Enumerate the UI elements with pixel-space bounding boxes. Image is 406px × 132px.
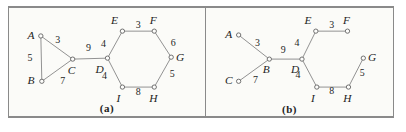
edge-weight-B-D: 9 bbox=[281, 44, 286, 55]
node-label-D: D bbox=[94, 63, 103, 75]
edge-D-E bbox=[107, 31, 122, 58]
node-C bbox=[236, 79, 240, 83]
node-label-F: F bbox=[149, 14, 157, 26]
node-label-C: C bbox=[225, 74, 233, 86]
node-label-A: A bbox=[224, 28, 232, 40]
caption-b: (b) bbox=[196, 104, 383, 115]
edge-weight-F-G: 6 bbox=[171, 37, 176, 48]
node-I bbox=[120, 85, 124, 89]
node-label-E: E bbox=[303, 15, 311, 27]
node-F bbox=[345, 29, 349, 33]
figure-frame: 5379436584ABCDEFGHI (a) 37943485ABCDEFGH… bbox=[8, 6, 394, 118]
edge-F-G bbox=[154, 31, 171, 57]
node-I bbox=[315, 85, 319, 89]
node-B bbox=[40, 79, 44, 83]
edge-weight-E-F: 3 bbox=[329, 19, 334, 30]
node-label-E: E bbox=[110, 15, 118, 27]
node-D bbox=[300, 57, 304, 61]
edge-weight-H-G: 5 bbox=[360, 67, 365, 78]
node-label-B: B bbox=[263, 63, 270, 75]
edge-weight-I-H: 8 bbox=[329, 85, 334, 96]
edge-A-B bbox=[41, 36, 42, 81]
node-F bbox=[152, 29, 156, 33]
edge-D-I bbox=[302, 59, 317, 87]
node-H bbox=[152, 85, 156, 89]
node-label-B: B bbox=[27, 74, 34, 86]
edge-weight-C-D: 9 bbox=[86, 42, 91, 53]
edge-D-E bbox=[302, 31, 316, 59]
graph-b: 37943485ABCDEFGHI bbox=[206, 8, 393, 116]
node-C bbox=[70, 57, 74, 61]
edge-weight-G-H: 5 bbox=[170, 68, 175, 79]
node-G bbox=[361, 56, 365, 60]
panel-b: 37943485ABCDEFGHI (b) bbox=[206, 8, 393, 116]
edge-weight-E-F: 3 bbox=[136, 19, 141, 30]
node-label-C: C bbox=[68, 64, 76, 76]
node-label-D: D bbox=[290, 63, 299, 75]
edge-weight-A-C: 3 bbox=[55, 34, 60, 45]
node-H bbox=[346, 85, 350, 89]
node-B bbox=[267, 57, 271, 61]
node-label-A: A bbox=[26, 29, 34, 41]
edge-weight-A-B: 3 bbox=[255, 37, 260, 48]
node-label-H: H bbox=[148, 92, 158, 104]
graph-a: 5379436584ABCDEFGHI bbox=[9, 8, 205, 116]
node-D bbox=[105, 56, 109, 60]
caption-a: (a) bbox=[9, 103, 205, 114]
node-G bbox=[169, 55, 173, 59]
node-A bbox=[39, 34, 43, 38]
edge-weight-D-E: 4 bbox=[295, 37, 300, 48]
edge-C-D bbox=[73, 58, 108, 59]
node-label-I: I bbox=[310, 92, 316, 104]
edge-I-D bbox=[107, 58, 122, 87]
node-label-H: H bbox=[342, 92, 352, 104]
panel-a: 5379436584ABCDEFGHI (a) bbox=[9, 8, 206, 116]
edge-weight-H-I: 8 bbox=[136, 86, 141, 97]
node-label-G: G bbox=[176, 51, 184, 63]
edge-weight-B-C: 7 bbox=[60, 75, 65, 86]
edge-weight-A-B: 5 bbox=[27, 52, 32, 63]
edge-weight-D-E: 4 bbox=[101, 38, 106, 49]
node-label-F: F bbox=[342, 14, 350, 26]
node-label-I: I bbox=[116, 92, 122, 104]
figure-page: 5379436584ABCDEFGHI (a) 37943485ABCDEFGH… bbox=[0, 0, 406, 132]
node-E bbox=[314, 29, 318, 33]
edge-G-H bbox=[154, 57, 171, 87]
node-label-G: G bbox=[368, 51, 376, 63]
edge-A-B bbox=[239, 35, 270, 59]
node-A bbox=[236, 33, 240, 37]
node-E bbox=[120, 29, 124, 33]
edge-weight-C-B: 7 bbox=[253, 74, 258, 85]
